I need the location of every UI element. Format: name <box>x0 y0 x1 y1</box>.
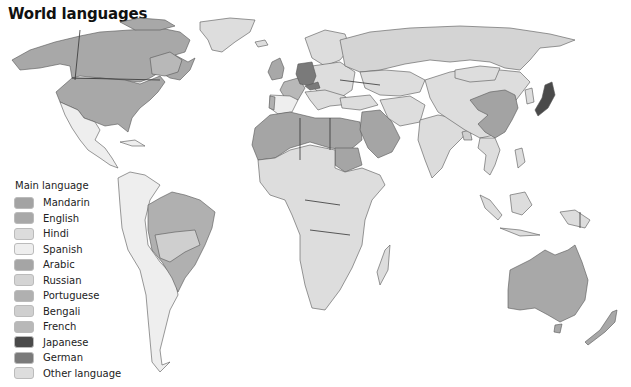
legend-item-english: English <box>14 211 121 227</box>
legend-label: French <box>43 321 76 332</box>
region-turkey <box>340 95 378 110</box>
legend-swatch <box>14 367 34 379</box>
region-sudan <box>335 148 362 172</box>
region-central-asia <box>360 70 425 96</box>
region-java <box>500 228 540 236</box>
region-new-guinea <box>560 210 590 228</box>
region-uk <box>268 58 284 80</box>
legend-swatch <box>14 212 34 224</box>
legend-swatch <box>14 336 34 348</box>
legend-label: Arabic <box>43 259 75 270</box>
legend-label: English <box>43 213 79 224</box>
legend-swatch <box>14 259 34 271</box>
legend-swatch <box>14 305 34 317</box>
legend-item-spanish: Spanish <box>14 242 121 258</box>
region-southeast-asia <box>478 138 500 175</box>
legend-label: Russian <box>43 275 82 286</box>
region-russia <box>340 26 575 72</box>
region-sub-saharan-africa <box>258 145 385 310</box>
legend-item-portuguese: Portuguese <box>14 288 121 304</box>
legend-swatch <box>14 228 34 240</box>
legend-item-hindi: Hindi <box>14 226 121 242</box>
region-australia <box>508 245 588 322</box>
region-caribbean <box>120 140 145 146</box>
region-borneo <box>510 192 532 215</box>
legend-label: Hindi <box>43 228 69 239</box>
legend-item-french: French <box>14 319 121 335</box>
legend-label: Other language <box>43 368 121 379</box>
legend-swatch <box>14 352 34 364</box>
legend-swatch <box>14 321 34 333</box>
legend-item-arabic: Arabic <box>14 257 121 273</box>
legend-item-german: German <box>14 350 121 366</box>
legend-item-russian: Russian <box>14 273 121 289</box>
legend-label: German <box>43 352 83 363</box>
region-tasmania <box>554 324 562 333</box>
legend-swatch <box>14 290 34 302</box>
legend-label: Bengali <box>43 306 80 317</box>
legend-label: Spanish <box>43 244 83 255</box>
legend-swatch <box>14 197 34 209</box>
region-philippines <box>515 148 525 168</box>
legend-swatch <box>14 243 34 255</box>
legend-swatch <box>14 274 34 286</box>
region-mongolia <box>455 66 500 82</box>
legend-item-mandarin: Mandarin <box>14 195 121 211</box>
legend-label: Portuguese <box>43 290 99 301</box>
region-madagascar <box>377 245 390 285</box>
legend-title: Main language <box>15 180 121 191</box>
legend-label: Japanese <box>43 337 88 348</box>
region-iceland <box>255 40 268 47</box>
region-greenland <box>200 18 255 52</box>
legend-item-japanese: Japanese <box>14 335 121 351</box>
legend-item-other-language: Other language <box>14 366 121 382</box>
region-korea <box>525 88 534 104</box>
region-new-zealand <box>585 310 617 345</box>
map-legend: Main language Mandarin English Hindi Spa… <box>14 180 121 381</box>
region-portugal <box>269 96 275 110</box>
region-sumatra <box>480 195 502 220</box>
legend-label: Mandarin <box>43 197 90 208</box>
region-arctic-islands <box>120 18 175 30</box>
legend-item-bengali: Bengali <box>14 304 121 320</box>
region-japan <box>535 82 555 116</box>
